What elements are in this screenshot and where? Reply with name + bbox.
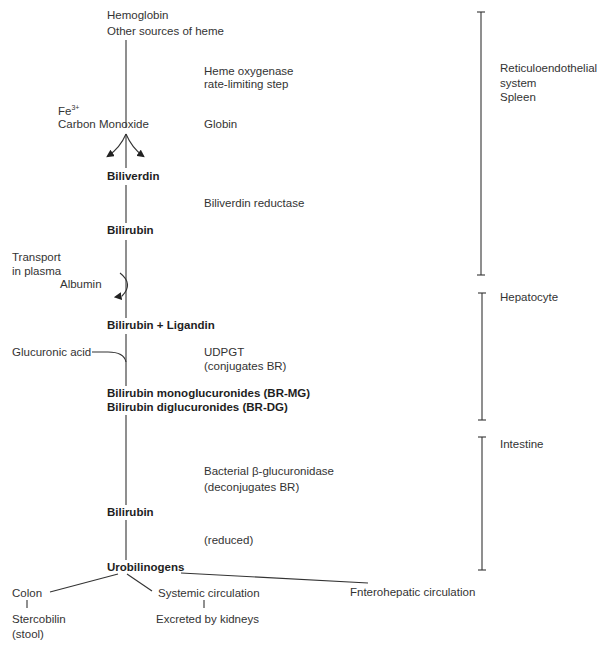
transport-plasma-label: in plasma: [12, 264, 61, 278]
reduced-label: (reduced): [204, 533, 253, 547]
arrow-right-icon: [126, 134, 143, 156]
node-bilirubin-ligandin: Bilirubin + Ligandin: [107, 318, 215, 332]
node-bilirubin: Bilirubin: [107, 223, 154, 237]
byproduct-iron: Fe3+: [58, 104, 79, 118]
location-reticuloendothelial: Reticuloendothelial: [500, 61, 597, 75]
location-intestine: Intestine: [500, 437, 543, 451]
location-spleen: Spleen: [500, 90, 536, 104]
albumin-label: Albumin: [60, 277, 102, 291]
source-hemoglobin: Hemoglobin: [107, 8, 168, 22]
enzyme-udpgt-note: (conjugates BR): [204, 359, 286, 373]
fate-stercobilin: Stercobilin: [12, 612, 66, 626]
enzyme-rate-limiting: rate-limiting step: [204, 77, 288, 91]
arrow-left-icon: [108, 134, 126, 156]
node-biliverdin: Biliverdin: [107, 169, 159, 183]
fate-stool: (stool): [12, 627, 44, 641]
branch-enterohepatic: [181, 573, 368, 583]
fate-enterohepatic: Fnterohepatic circulation: [350, 585, 475, 599]
glucuronic-acid-label: Glucuronic acid: [12, 345, 91, 359]
fate-colon: Colon: [12, 586, 42, 600]
iron-label: Fe: [58, 105, 71, 117]
byproduct-carbon-monoxide: Carbon Monoxide: [58, 117, 149, 131]
branch-colon: [50, 574, 118, 592]
enzyme-heme-oxygenase: Heme oxygenase: [204, 64, 294, 78]
enzyme-udpgt: UDPGT: [204, 345, 244, 359]
node-br-dg: Bilirubin diglucuronides (BR-DG): [107, 400, 288, 414]
transport-label: Transport: [12, 250, 61, 264]
glucuronic-curve: [92, 352, 126, 362]
location-hepatocyte: Hepatocyte: [500, 290, 558, 304]
node-bilirubin-2: Bilirubin: [107, 505, 154, 519]
node-br-mg: Bilirubin monoglucuronides (BR-MG): [107, 386, 310, 400]
fate-kidneys: Excreted by kidneys: [156, 612, 259, 626]
byproduct-globin: Globin: [204, 117, 237, 131]
enzyme-biliverdin-reductase: Biliverdin reductase: [204, 196, 304, 210]
node-urobilinogens: Urobilinogens: [107, 560, 184, 574]
location-system: system: [500, 76, 536, 90]
iron-charge: 3+: [71, 104, 79, 111]
fate-systemic: Systemic circulation: [158, 586, 260, 600]
enzyme-deconjugates-note: (deconjugates BR): [204, 480, 299, 494]
source-other-heme: Other sources of heme: [107, 24, 224, 38]
branch-systemic: [127, 574, 152, 591]
enzyme-bacterial-glucuronidase: Bacterial β-glucuronidase: [204, 464, 334, 478]
